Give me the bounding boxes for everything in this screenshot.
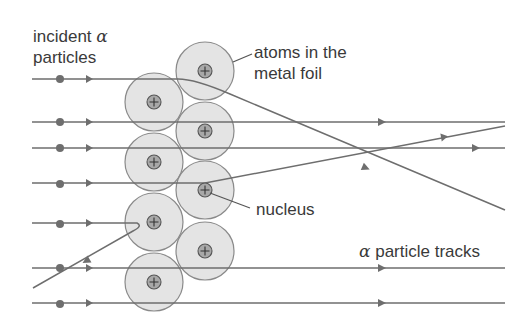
arrow-right-icon [86, 75, 93, 83]
arrow-right-icon [86, 264, 93, 272]
atoms-label-line2: metal foil [254, 64, 322, 83]
alpha-particle-dot [56, 75, 64, 83]
nucleus-icon [198, 64, 212, 78]
atoms-label: atoms in the metal foil [254, 42, 347, 84]
alpha-particle-dot [56, 144, 64, 152]
arrow-right-icon [86, 118, 93, 126]
arrow-right-icon [86, 219, 93, 227]
alpha-particle-dot [56, 300, 64, 308]
metal-foil-atoms [125, 42, 234, 311]
arrow-right-icon [378, 299, 386, 307]
track-backscattered [32, 223, 139, 288]
nucleus-icon [147, 95, 161, 109]
arrow-downright-icon [361, 163, 371, 173]
particle-tracks-text: particle tracks [370, 242, 480, 261]
atoms-leader-line [233, 54, 252, 62]
nucleus-icon [147, 155, 161, 169]
alpha-particle-dot [56, 220, 64, 228]
nucleus-icon [147, 215, 161, 229]
nucleus-icon [198, 244, 212, 258]
track-deflected-up [32, 126, 505, 183]
alpha-particle-dot [56, 264, 64, 272]
arrow-right-icon [472, 144, 480, 152]
alpha-symbol: α [96, 26, 107, 46]
atoms-label-line1: atoms in the [254, 43, 347, 62]
nucleus-icon [147, 275, 161, 289]
alpha-symbol: α [359, 241, 370, 261]
incident-label-line2: particles [33, 48, 96, 67]
incident-label-line1: incident [33, 27, 92, 46]
alpha-particle-dot [56, 118, 64, 126]
arrow-right-icon [378, 118, 386, 126]
nucleus-label-text: nucleus [256, 200, 315, 219]
arrow-right-icon [86, 299, 93, 307]
arrow-right-icon [86, 144, 93, 152]
arrow-right-icon [378, 264, 386, 272]
arrow-right-icon [86, 179, 93, 187]
particle-tracks-label: α particle tracks [359, 241, 480, 262]
nucleus-icon [198, 124, 212, 138]
alpha-particle-tracks [32, 79, 505, 303]
alpha-particle-dot [56, 180, 64, 188]
track-deflected-down [32, 79, 505, 210]
nucleus-label: nucleus [256, 199, 315, 220]
nucleus-icon [198, 183, 212, 197]
incident-particles-label: incident α particles [33, 26, 108, 68]
